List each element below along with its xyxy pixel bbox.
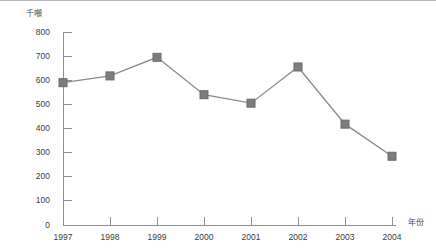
y-axis-tick-label: 600 [22, 76, 50, 84]
x-axis-tick-label: 2002 [278, 233, 318, 242]
data-point-marker: 1998: 618 [106, 72, 114, 80]
data-series-layer: 1997: 5901998: 6181999: 6952000: 5402001… [59, 53, 396, 160]
y-axis-tick-label: 700 [22, 52, 50, 60]
x-axis-tick-label: 1999 [137, 233, 177, 242]
x-axis-tick-label: 1997 [43, 233, 83, 242]
data-point-marker: 2000: 540 [200, 91, 208, 99]
y-axis-tick-label: 300 [22, 148, 50, 156]
x-axis-tick-label: 2004 [372, 233, 412, 242]
y-axis-tick-label: 200 [22, 172, 50, 180]
data-point-marker: 1997: 590 [59, 79, 67, 87]
data-point-marker: 2001: 505 [247, 99, 255, 107]
y-axis-tick-label: 0 [22, 221, 50, 229]
y-axis-tick-label: 100 [22, 196, 50, 204]
x-axis-tick-label: 2000 [184, 233, 224, 242]
y-axis-tick-label: 800 [22, 28, 50, 36]
y-axis-tick-label: 500 [22, 100, 50, 108]
x-axis-tick-label: 1998 [90, 233, 130, 242]
data-point-marker: 2004: 285 [388, 152, 396, 160]
line-chart: 千噸 年份 1997: 5901998: 6181999: 6952000: 5… [0, 0, 436, 250]
plot-area: 1997: 5901998: 6181999: 6952000: 5402001… [0, 0, 436, 250]
y-axis-tick-label: 400 [22, 124, 50, 132]
x-axis-tick-label: 2003 [325, 233, 365, 242]
data-point-marker: 1999: 695 [153, 53, 161, 61]
x-axis-tick-label: 2001 [231, 233, 271, 242]
data-point-marker: 2003: 418 [341, 120, 349, 128]
data-point-marker: 2002: 655 [294, 63, 302, 71]
